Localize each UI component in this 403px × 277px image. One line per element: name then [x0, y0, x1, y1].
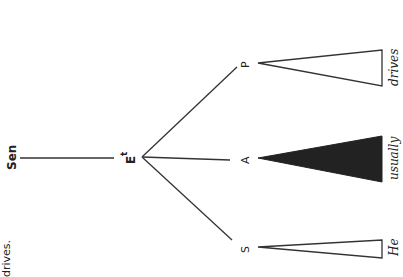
edge-to-P — [142, 67, 237, 157]
word-he: He — [387, 238, 401, 257]
node-label: E — [124, 156, 138, 164]
caption-fragment: drives. — [0, 240, 13, 277]
node-superscript: t — [119, 151, 129, 156]
word-drives: drives — [387, 49, 401, 86]
syntax-tree: drives. Sen E t P drives A usually S He — [0, 0, 403, 277]
edge-to-A — [142, 157, 230, 160]
child-label-S: S — [239, 246, 252, 253]
root-label: Sen — [5, 145, 19, 170]
child-label-P: P — [239, 61, 252, 68]
edge-to-S — [142, 157, 232, 240]
word-usually: usually — [387, 137, 401, 180]
triangle-S — [258, 240, 382, 258]
triangle-P — [258, 50, 382, 86]
child-label-A: A — [239, 156, 252, 164]
triangle-A — [258, 136, 382, 182]
